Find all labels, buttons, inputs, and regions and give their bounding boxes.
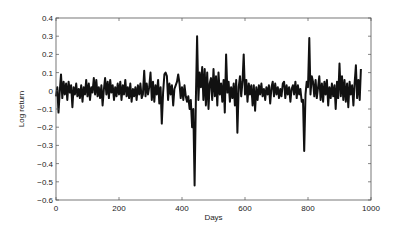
x-tick-label: 1000: [362, 204, 380, 213]
x-tick-label: 800: [301, 204, 315, 213]
y-tick-label: 0.3: [42, 32, 54, 41]
y-tick-label: −0.2: [37, 123, 53, 132]
chart: 0.40.30.20.10−0.1−0.2−0.3−0.4−0.5−0.6 02…: [0, 0, 397, 231]
y-tick-label: −0.5: [37, 178, 53, 187]
y-tick-label: 0.2: [42, 50, 54, 59]
x-axis-label: Days: [204, 213, 222, 222]
y-tick-label: −0.6: [37, 196, 53, 205]
plot-area: [56, 18, 371, 200]
y-tick-label: 0.1: [42, 69, 54, 78]
y-tick-label: −0.3: [37, 141, 53, 150]
x-tick-label: 400: [175, 204, 189, 213]
x-tick-label: 200: [112, 204, 126, 213]
y-tick-label: −0.4: [37, 160, 53, 169]
x-tick-label: 0: [54, 204, 59, 213]
y-tick-label: −0.1: [37, 105, 53, 114]
x-tick-label: 600: [238, 204, 252, 213]
y-tick-label: 0.4: [42, 14, 54, 23]
y-axis-label: Log return: [17, 91, 26, 127]
y-tick-label: 0: [49, 87, 54, 96]
